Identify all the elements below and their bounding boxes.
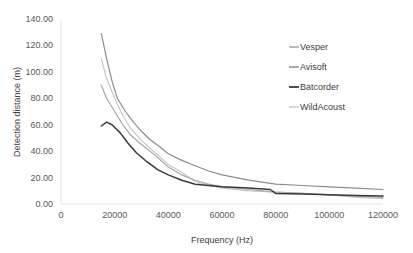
x-tick-label: 120000	[368, 210, 398, 220]
x-tick-label: 80000	[263, 210, 288, 220]
y-tick-label: 60.00	[30, 120, 53, 130]
y-tick-label: 140.00	[25, 14, 53, 24]
series-line-wildacoust	[101, 59, 383, 199]
x-tick-label: 20000	[102, 210, 127, 220]
x-axis-ticks: 020000400006000080000100000120000	[58, 210, 398, 220]
series-lines	[101, 34, 383, 199]
y-axis-title: Detection distance (m)	[12, 67, 22, 157]
legend-label: Vesper	[300, 42, 328, 52]
y-tick-label: 0.00	[35, 199, 53, 209]
y-tick-label: 100.00	[25, 67, 53, 77]
legend-label: Avisoft	[300, 62, 327, 72]
y-axis-ticks: 0.0020.0040.0060.0080.00100.00120.00140.…	[25, 14, 53, 209]
line-chart: 0.0020.0040.0060.0080.00100.00120.00140.…	[0, 0, 413, 253]
legend-label: Batcorder	[300, 82, 339, 92]
legend-item-batcorder: Batcorder	[289, 82, 339, 92]
legend-item-vesper: Vesper	[289, 42, 328, 52]
x-tick-label: 40000	[156, 210, 181, 220]
y-tick-label: 80.00	[30, 93, 53, 103]
legend-item-avisoft: Avisoft	[289, 62, 327, 72]
legend: VesperAvisoftBatcorderWildAcoust	[289, 42, 346, 112]
legend-item-wildacoust: WildAcoust	[289, 102, 346, 112]
x-axis-title: Frequency (Hz)	[191, 235, 253, 245]
x-tick-label: 100000	[314, 210, 344, 220]
y-tick-label: 40.00	[30, 146, 53, 156]
y-tick-label: 120.00	[25, 40, 53, 50]
y-tick-label: 20.00	[30, 173, 53, 183]
x-tick-label: 60000	[209, 210, 234, 220]
x-tick-label: 0	[58, 210, 63, 220]
legend-label: WildAcoust	[300, 102, 346, 112]
